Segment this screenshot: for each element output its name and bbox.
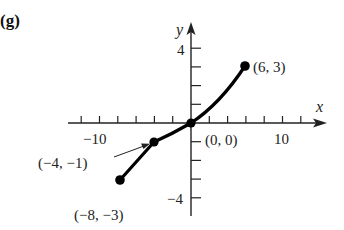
x-tick-label-neg10: −10: [83, 131, 106, 147]
point-label-6-3: (6, 3): [253, 59, 286, 76]
y-axis-label: y: [174, 21, 184, 39]
panel-label: (g): [0, 11, 20, 30]
point-label-neg8-neg3: (−8, −3): [74, 207, 123, 224]
y-tick-label-neg4: −4: [167, 191, 183, 207]
point-neg8-neg3: [115, 175, 125, 185]
y-tick-label-4: 4: [177, 42, 185, 58]
graph-figure: (g) x −10 10 y 4 −4: [0, 0, 344, 230]
x-tick-label-10: 10: [274, 131, 289, 147]
x-axis: x −10 10: [68, 98, 327, 147]
point-label-origin: (0, 0): [205, 132, 238, 149]
point-label-neg4-neg1: (−4, −1): [38, 155, 87, 172]
point-origin: [186, 118, 195, 127]
point-neg4-neg1: [149, 137, 158, 146]
line-segment: [120, 142, 154, 180]
x-axis-label: x: [315, 98, 323, 115]
plot-canvas: (g) x −10 10 y 4 −4: [0, 0, 344, 230]
point-6-3: [240, 61, 250, 71]
